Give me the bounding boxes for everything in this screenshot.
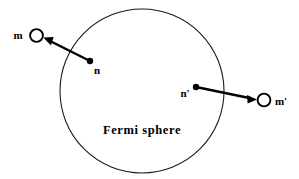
empty-state-circle-m — [30, 29, 43, 42]
occupied-state-dot-nprime — [193, 84, 199, 90]
occupied-state-dot-n — [87, 58, 93, 64]
scattering-arrow-nprime-to-mprime — [193, 84, 271, 107]
label-n-prime: n' — [180, 87, 189, 99]
label-n: n — [94, 64, 100, 76]
scattering-arrow-n-to-m — [30, 29, 93, 64]
empty-state-circle-mprime — [258, 94, 271, 107]
arrowhead-nprime-mprime — [247, 95, 257, 104]
fermi-sphere-caption: Fermi sphere — [103, 123, 181, 137]
fermi-sphere-outline — [60, 9, 224, 173]
arrowhead-n-m — [43, 37, 53, 45]
diagram-canvas: m n n' m' Fermi sphere — [0, 0, 299, 179]
arrow-shaft-n-m — [48, 40, 91, 61]
label-m: m — [13, 29, 22, 41]
arrow-shaft-nprime-mprime — [196, 87, 251, 98]
fermi-sphere-figure: m n n' m' Fermi sphere — [0, 0, 299, 179]
label-m-prime: m' — [275, 95, 287, 107]
